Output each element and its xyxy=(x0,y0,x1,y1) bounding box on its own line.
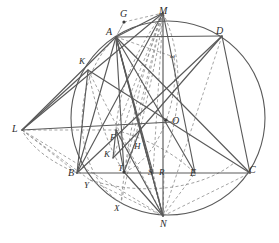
point-G xyxy=(122,20,125,23)
point-label-D: D xyxy=(216,26,223,36)
point-O xyxy=(164,118,167,121)
segment-D-H xyxy=(140,36,222,130)
dashed-segment-Y-N xyxy=(90,180,163,216)
dashed-segment-N-E xyxy=(163,173,195,216)
point-label-B: B xyxy=(68,168,74,178)
point-label-w: ω xyxy=(170,53,175,60)
dashed-arc-arc-T-right xyxy=(124,57,175,172)
point-label-T: T xyxy=(118,164,123,173)
segment-H-T xyxy=(124,130,140,172)
segment-M-E xyxy=(163,13,195,173)
segment-L-A xyxy=(22,37,116,130)
point-label-L: L xyxy=(12,124,18,134)
dashed-segment-D-N xyxy=(163,36,222,216)
dashed-segment-N-C xyxy=(163,173,250,216)
point-label-Klo: K xyxy=(104,150,110,159)
segment-A-D xyxy=(116,36,222,37)
point-label-R: R xyxy=(159,168,165,177)
point-label-C: C xyxy=(249,165,256,175)
point-label-Y: Y xyxy=(84,181,89,190)
point-label-E: E xyxy=(190,168,196,178)
point-label-G: G xyxy=(120,9,127,19)
point-label-M: M xyxy=(159,6,167,16)
segment-K-B xyxy=(77,70,88,173)
point-label-F: F xyxy=(110,133,116,142)
point-label-O: O xyxy=(172,116,179,126)
point-label-A: A xyxy=(106,27,112,37)
segment-D-C xyxy=(222,36,250,173)
geometry-canvas xyxy=(0,0,279,243)
geometry-figure: GMADKωLOFHKTBSRECYXN xyxy=(0,0,279,243)
point-label-H: H xyxy=(134,142,141,151)
point-label-S: S xyxy=(148,168,153,177)
point-label-X: X xyxy=(114,204,120,213)
segment-A-H xyxy=(116,37,140,130)
segment-L-O xyxy=(22,122,172,130)
point-label-Kup: K xyxy=(79,57,85,66)
point-label-N: N xyxy=(160,219,167,229)
